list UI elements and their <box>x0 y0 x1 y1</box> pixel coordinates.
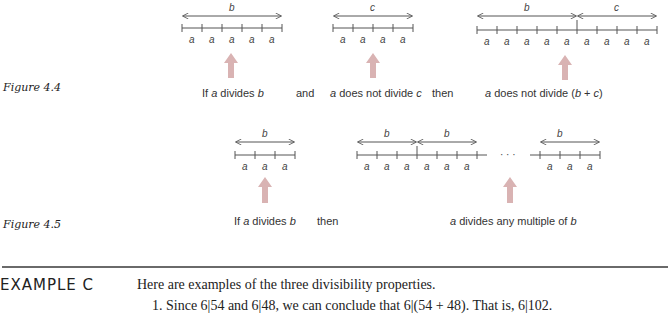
highlight-arrow-icon <box>258 177 272 203</box>
example-intro: Here are examples of the three divisibil… <box>137 277 436 293</box>
caption-if-a-divides-b: If a divides b <box>202 87 264 99</box>
fig44-diagram-3: b c aaaaa aaaa <box>477 2 657 80</box>
highlight-arrow-icon <box>503 177 517 203</box>
span-label-b: b <box>229 2 235 13</box>
svg-text:a: a <box>444 161 450 172</box>
highlight-arrow-icon <box>558 55 572 80</box>
caption-a-divides-multiple: a divides any multiple of b <box>450 215 577 227</box>
highlight-arrow-icon <box>224 53 238 78</box>
svg-text:c: c <box>370 2 375 13</box>
svg-text:c: c <box>614 2 619 13</box>
fig45-diagram-1: b aaa <box>235 128 295 203</box>
svg-text:a: a <box>189 34 195 45</box>
svg-text:a: a <box>364 161 370 172</box>
figure-4-5-label: Figure 4.5 <box>3 218 61 231</box>
svg-text:a: a <box>587 161 593 172</box>
svg-text:a: a <box>262 161 268 172</box>
svg-text:a: a <box>484 36 490 47</box>
highlight-arrow-icon <box>366 53 380 78</box>
svg-text:b: b <box>524 2 530 13</box>
svg-text:a: a <box>404 161 410 172</box>
svg-text:a: a <box>584 36 590 47</box>
svg-text:a: a <box>380 34 386 45</box>
section-divider <box>2 266 668 268</box>
svg-text:a: a <box>340 34 346 45</box>
caption-and: and <box>296 87 314 99</box>
caption-a-not-divide-c: a does not divide c <box>330 87 422 99</box>
svg-text:a: a <box>624 36 630 47</box>
fig44-diagram-2: c aaaa <box>333 2 413 78</box>
svg-text:a: a <box>400 34 406 45</box>
caption-if-a-divides-b-2: If a divides b <box>234 215 296 227</box>
svg-text:b: b <box>262 128 268 139</box>
svg-text:b: b <box>444 128 450 139</box>
svg-text:a: a <box>360 34 366 45</box>
svg-text:a: a <box>504 36 510 47</box>
svg-text:b: b <box>384 128 390 139</box>
svg-text:a: a <box>282 161 288 172</box>
figure-4-4-label: Figure 4.4 <box>3 81 61 94</box>
svg-text:a: a <box>249 34 255 45</box>
svg-text:a: a <box>209 34 215 45</box>
svg-text:a: a <box>524 36 530 47</box>
svg-text:a: a <box>384 161 390 172</box>
fig45-diagram-2: b b aaa aaa · · · b aaa <box>357 128 600 203</box>
svg-text:b: b <box>557 128 563 139</box>
svg-text:a: a <box>464 161 470 172</box>
svg-text:a: a <box>269 34 275 45</box>
ellipsis: · · · <box>500 149 516 160</box>
svg-text:a: a <box>544 36 550 47</box>
caption-then: then <box>432 87 453 99</box>
example-heading: EXAMPLE C <box>0 276 94 294</box>
svg-text:a: a <box>567 161 573 172</box>
svg-text:a: a <box>564 36 570 47</box>
svg-text:a: a <box>229 34 235 45</box>
fig44-diagram-1: b aaaaa <box>182 2 282 78</box>
caption-then-2: then <box>317 215 338 227</box>
svg-text:a: a <box>644 36 650 47</box>
svg-text:a: a <box>242 161 248 172</box>
caption-a-not-divide-b-plus-c: a does not divide (b + c) <box>485 87 603 99</box>
svg-text:a: a <box>604 36 610 47</box>
svg-text:a: a <box>547 161 553 172</box>
example-item-1: 1. Since 6|54 and 6|48, we can conclude … <box>152 298 552 314</box>
svg-text:a: a <box>424 161 430 172</box>
